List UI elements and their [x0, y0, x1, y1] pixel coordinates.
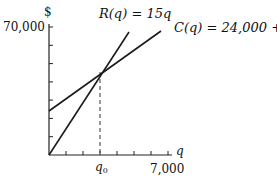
x-axis-var-label: q: [176, 144, 184, 158]
break-even-chart: $ 70,000 q 7,000 q0 R(q) = 15q C(q) = 24…: [0, 0, 277, 179]
cost-equation-label: C(q) = 24,000 + 7q: [174, 20, 277, 35]
revenue-equation-label: R(q) = 15q: [98, 6, 171, 21]
x-right-tick-label: 7,000: [150, 162, 184, 176]
q0-label: q0: [95, 160, 108, 175]
revenue-line: [49, 32, 129, 155]
y-top-tick-label: 70,000: [3, 20, 45, 34]
cost-line: [49, 31, 161, 111]
y-axis-unit-label: $: [44, 5, 52, 19]
